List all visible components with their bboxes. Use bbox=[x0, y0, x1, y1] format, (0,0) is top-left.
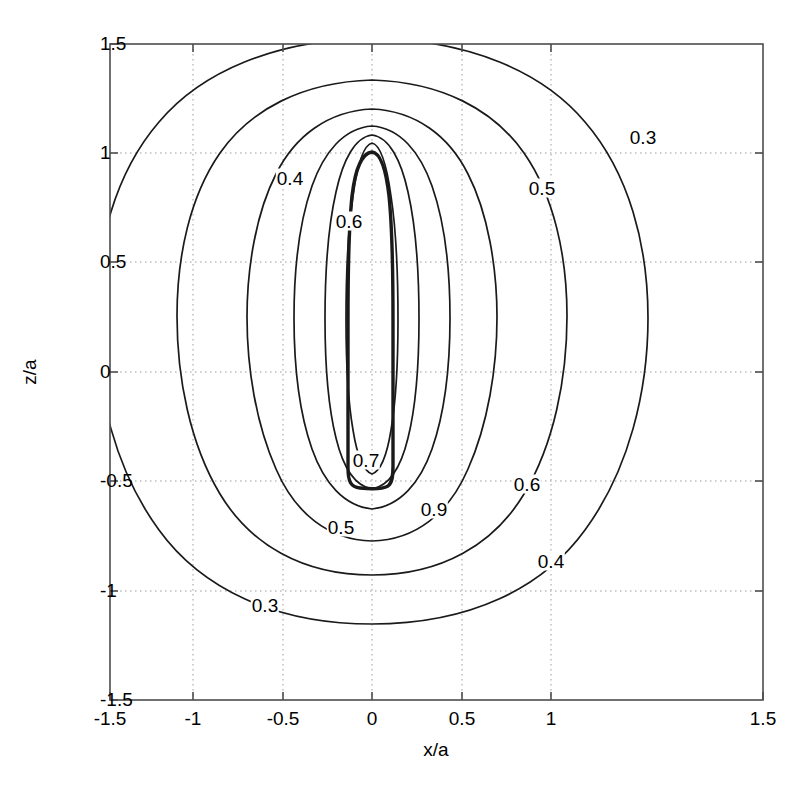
contour-label-7: 0.6 bbox=[513, 475, 541, 494]
contour-label-5: 0.9 bbox=[420, 500, 448, 519]
contour-label-8: 0.4 bbox=[537, 552, 565, 571]
contour-label-6: 0.5 bbox=[327, 518, 355, 537]
x-tick-label-6: 1.5 bbox=[750, 708, 776, 730]
x-tick-label-2: -0.5 bbox=[267, 708, 300, 730]
contour-label-2: 0.3 bbox=[629, 128, 657, 147]
plot-canvas bbox=[0, 0, 812, 786]
x-tick-label-5: 1 bbox=[546, 708, 557, 730]
y-axis-title: z/a bbox=[19, 359, 41, 384]
contour-plot-figure: -1.5 -1 -0.5 0 0.5 1 1.5 1.5 1 0.5 0 -0.… bbox=[0, 0, 812, 786]
x-tick-label-4: 0.5 bbox=[449, 708, 475, 730]
contour-label-0: 0.4 bbox=[276, 169, 304, 188]
contour-label-3: 0.5 bbox=[528, 179, 556, 198]
x-tick-label-3: 0 bbox=[367, 708, 378, 730]
x-tick-label-1: -1 bbox=[185, 708, 202, 730]
contour-label-1: 0.6 bbox=[335, 212, 363, 231]
contour-label-4: 0.7 bbox=[352, 451, 380, 470]
x-tick-label-0: -1.5 bbox=[94, 708, 127, 730]
contour-label-9: 0.3 bbox=[251, 596, 279, 615]
x-axis-title: x/a bbox=[423, 739, 448, 761]
